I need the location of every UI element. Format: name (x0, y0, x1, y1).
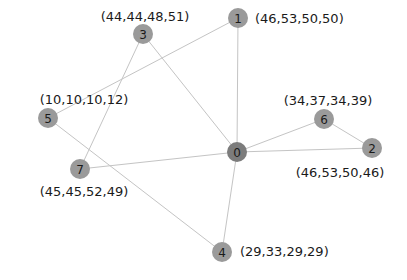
node-id-text: 5 (44, 112, 52, 126)
node-7: 7 (70, 159, 90, 179)
node-0: 0 (227, 142, 247, 162)
node-label-1: (46,53,50,50) (255, 11, 344, 26)
node-id-text: 0 (233, 146, 241, 160)
node-1: 1 (228, 8, 248, 28)
node-label-7: (45,45,52,49) (40, 184, 129, 199)
node-4: 4 (212, 242, 232, 262)
node-6: 6 (314, 109, 334, 129)
node-id-text: 4 (218, 246, 226, 260)
node-label-6: (34,37,34,39) (284, 93, 373, 108)
node-id-text: 3 (139, 28, 147, 42)
node-id-text: 2 (368, 142, 376, 156)
node-label-5: (10,10,10,12) (40, 92, 129, 107)
node-label-4: (29,33,29,29) (240, 244, 329, 259)
edge-0-6 (237, 119, 324, 152)
node-2: 2 (362, 138, 382, 158)
node-label-3: (44,44,48,51) (101, 9, 190, 24)
edge-0-1 (237, 18, 238, 152)
node-id-text: 6 (320, 113, 328, 127)
edge-0-2 (237, 148, 372, 152)
edges-layer (48, 18, 372, 252)
node-3: 3 (133, 24, 153, 44)
node-5: 5 (38, 108, 58, 128)
edge-0-4 (222, 152, 237, 252)
nodes-layer: 01234567 (38, 8, 382, 262)
graph-diagram: 01234567 (46,53,50,50)(46,53,50,46)(44,4… (0, 0, 407, 280)
node-id-text: 1 (234, 12, 242, 26)
labels-layer: (46,53,50,50)(46,53,50,46)(44,44,48,51)(… (40, 9, 385, 259)
node-id-text: 7 (76, 163, 84, 177)
node-label-2: (46,53,50,46) (296, 165, 385, 180)
edge-0-3 (143, 34, 237, 152)
